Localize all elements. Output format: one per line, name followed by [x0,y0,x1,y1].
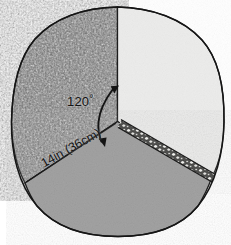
pie-diagram [0,0,231,245]
figure-container: 120° 14in (36cm) [0,0,231,245]
